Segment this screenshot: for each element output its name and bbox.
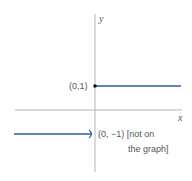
closed-dot-icon bbox=[93, 84, 97, 88]
open-point-label-line1: (0, −1) [not on bbox=[98, 129, 154, 139]
closed-point-label: (0,1) bbox=[69, 81, 88, 91]
open-point-label-line2: the graph] bbox=[128, 144, 169, 154]
x-axis-label: x bbox=[178, 113, 182, 123]
y-axis-label: y bbox=[99, 14, 103, 24]
